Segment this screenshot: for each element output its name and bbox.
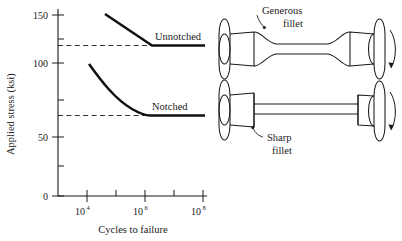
sharp-fillet-label-line1: Sharp bbox=[267, 132, 292, 143]
unnotched-curve-label: Unnotched bbox=[155, 31, 202, 42]
torsion-arrow-top bbox=[388, 30, 395, 68]
notched-specimen: Sharp fillet bbox=[219, 80, 395, 156]
y-tick-label-150: 150 bbox=[33, 10, 48, 21]
notched-curve bbox=[89, 64, 205, 116]
torsion-arrow-bottom bbox=[388, 92, 395, 130]
generous-fillet-leader-dot bbox=[263, 26, 266, 29]
sharp-fillet-label-line2: fillet bbox=[272, 145, 292, 156]
right-grip-cylinder-sharp bbox=[358, 81, 385, 141]
sharp-fillet-leader-dot bbox=[251, 126, 254, 129]
generous-fillet-label-line1: Generous bbox=[262, 5, 302, 16]
generous-fillet-leader bbox=[257, 15, 264, 27]
svg-text:10: 10 bbox=[133, 206, 143, 217]
svg-text:4: 4 bbox=[86, 204, 90, 211]
svg-text:6: 6 bbox=[144, 204, 148, 211]
svg-text:10: 10 bbox=[75, 206, 85, 217]
x-tick-label-1e6: 10 6 bbox=[133, 204, 148, 217]
sn-plot: Applied stress (ksi) 150 100 50 0 bbox=[0, 0, 210, 241]
y-tick-label-0: 0 bbox=[43, 191, 48, 202]
left-grip-cylinder-generous bbox=[219, 19, 254, 79]
unnotched-specimen: Generous fillet bbox=[219, 5, 395, 79]
svg-text:8: 8 bbox=[202, 204, 205, 211]
specimen-diagrams: Generous fillet bbox=[210, 0, 402, 241]
y-axis-minor-ticks bbox=[58, 39, 64, 166]
svg-text:10: 10 bbox=[191, 206, 201, 217]
fatigue-sn-curve-figure: Applied stress (ksi) 150 100 50 0 bbox=[0, 0, 402, 241]
generous-fillet-label-line2: fillet bbox=[283, 18, 303, 29]
notched-curve-label: Notched bbox=[152, 101, 188, 112]
generous-fillet-taper-top bbox=[254, 32, 350, 44]
x-tick-label-1e8: 10 8 bbox=[191, 204, 206, 217]
right-grip-cylinder-generous bbox=[350, 19, 385, 79]
generous-fillet-taper-bottom bbox=[254, 54, 350, 66]
sharp-fillet-leader bbox=[253, 128, 263, 137]
x-tick-label-1e4: 10 4 bbox=[75, 204, 90, 217]
y-axis-title: Applied stress (ksi) bbox=[5, 73, 17, 155]
left-grip-cylinder-sharp bbox=[219, 80, 254, 140]
y-tick-label-50: 50 bbox=[38, 132, 48, 143]
x-axis-title: Cycles to failure bbox=[98, 224, 168, 235]
y-tick-label-100: 100 bbox=[33, 58, 48, 69]
